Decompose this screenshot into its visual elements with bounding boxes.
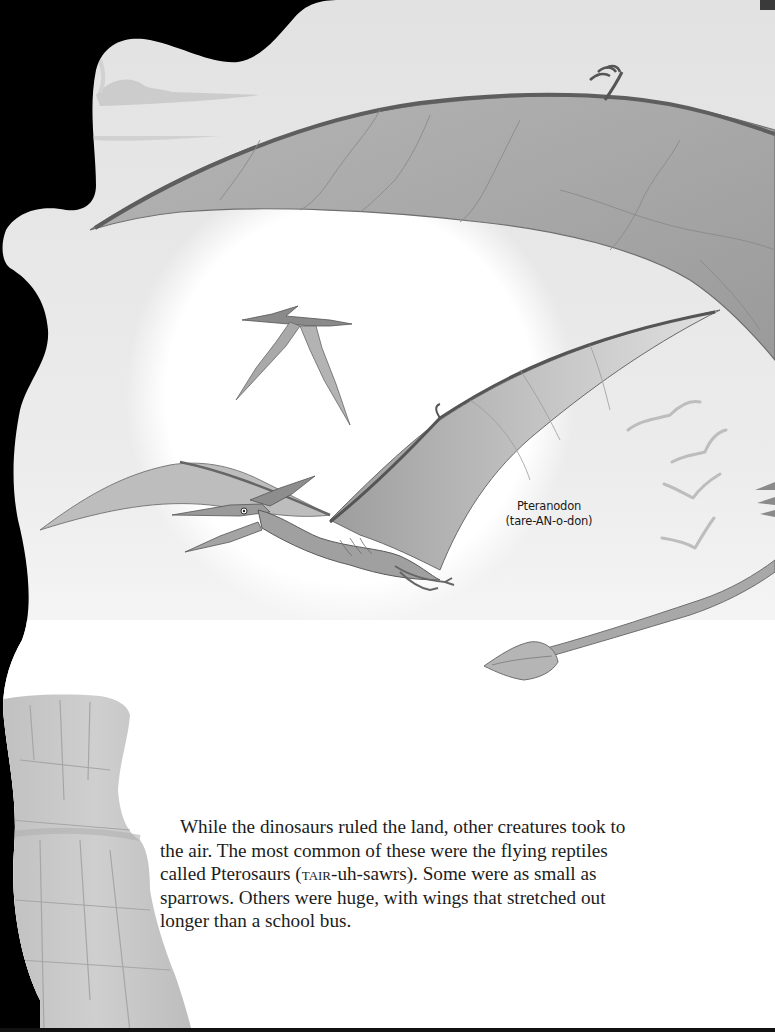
paragraph: While the dinosaurs ruled the land, othe… <box>160 815 640 933</box>
text-line: -uh-sawrs). Some were as small as <box>331 863 596 884</box>
text-line: longer than a school bus. <box>160 910 351 931</box>
pteranodon-caption: Pteranodon (tare-AN-o-don) <box>484 499 614 529</box>
text-line: While the dinosaurs ruled the land, othe… <box>180 816 625 837</box>
text-line: called Pterosaurs ( <box>160 863 302 884</box>
caption-pronunciation: (tare-AN-o-don) <box>484 514 614 529</box>
pronunciation-small-caps: TAIR <box>302 863 331 884</box>
caption-name: Pteranodon <box>484 499 614 514</box>
body-paragraph: While the dinosaurs ruled the land, othe… <box>160 815 640 933</box>
page-edge-shadow <box>760 0 775 10</box>
book-page: Pteranodon (tare-AN-o-don) While the din… <box>0 0 775 1032</box>
page-bottom-edge <box>0 1028 775 1032</box>
text-line: the air. The most common of these were t… <box>160 840 608 861</box>
text-line: sparrows. Others were huge, with wings t… <box>160 887 605 908</box>
